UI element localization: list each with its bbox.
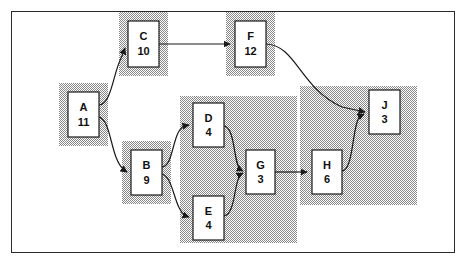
node-duration-h: 6: [324, 173, 330, 185]
node-box-a: [68, 92, 99, 137]
node-box-c: [128, 21, 159, 67]
network-diagram: A11C10F12B9D4E4G3H6J3: [0, 0, 466, 269]
node-duration-f: 12: [244, 45, 256, 57]
node-duration-d: 4: [205, 126, 212, 138]
node-label-c: C: [140, 30, 148, 42]
node-label-d: D: [205, 112, 213, 124]
node-a[interactable]: A11: [68, 92, 99, 137]
node-label-g: G: [256, 159, 265, 171]
node-label-f: F: [247, 30, 254, 42]
node-label-j: J: [381, 99, 387, 111]
node-f[interactable]: F12: [235, 21, 266, 67]
node-b[interactable]: B9: [131, 150, 162, 195]
node-duration-c: 10: [137, 45, 149, 57]
node-duration-g: 3: [257, 173, 263, 185]
diagram-canvas: A11C10F12B9D4E4G3H6J3: [0, 0, 466, 269]
node-duration-a: 11: [78, 116, 90, 128]
node-d[interactable]: D4: [193, 103, 224, 147]
node-box-b: [131, 150, 162, 195]
node-j[interactable]: J3: [369, 90, 400, 134]
node-h[interactable]: H6: [312, 150, 342, 194]
node-duration-j: 3: [381, 113, 387, 125]
node-c[interactable]: C10: [128, 21, 159, 67]
node-duration-e: 4: [205, 219, 212, 231]
node-label-h: H: [323, 159, 331, 171]
node-g[interactable]: G3: [246, 150, 275, 194]
node-box-f: [235, 21, 266, 67]
node-duration-b: 9: [143, 174, 149, 186]
node-label-b: B: [143, 159, 151, 171]
node-label-a: A: [80, 101, 88, 113]
node-e[interactable]: E4: [193, 196, 224, 240]
node-label-e: E: [205, 205, 212, 217]
